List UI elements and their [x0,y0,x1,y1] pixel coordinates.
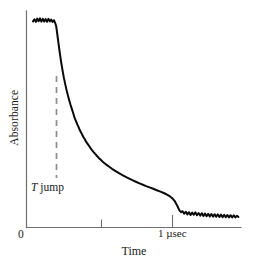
figure-container: Absorbance Time 0 1 µsec T jump [0,0,257,271]
x-axis-label: Time [86,245,182,257]
x-axis-tick-label-one-usec: 1 µsec [158,228,187,239]
y-axis-label: Absorbance [9,78,21,158]
t-jump-word: jump [37,181,64,193]
x-axis-tick-label-zero: 0 [18,229,24,241]
t-jump-annotation-label: T jump [31,182,64,194]
plot-svg [0,0,257,271]
